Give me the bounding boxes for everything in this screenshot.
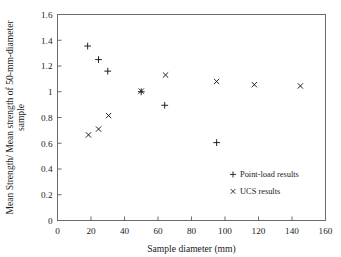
x-tick-label: 100: [218, 226, 232, 236]
data-point[interactable]: [298, 83, 303, 88]
data-point[interactable]: [163, 72, 168, 77]
y-tick-label: 1: [48, 87, 53, 97]
plot-canvas: 02040608010012014016000.20.40.60.811.21.…: [0, 0, 341, 257]
legend: Point-load resultsUCS results: [230, 170, 299, 196]
legend-marker-point-load: [230, 171, 236, 177]
x-tick-label: 80: [187, 226, 197, 236]
data-point[interactable]: [84, 43, 91, 50]
data-point[interactable]: [252, 82, 257, 87]
y-axis-title-line: Mean Strength/ Mean strength of 50-mm-di…: [4, 20, 15, 215]
x-axis-title: Sample diameter (mm): [147, 243, 235, 255]
y-axis-title-line: sample: [15, 104, 26, 131]
y-tick-label: 1.2: [41, 61, 53, 71]
x-tick-label: 140: [285, 226, 299, 236]
y-tick-label: 1.6: [41, 10, 53, 20]
y-tick-label: 0.4: [41, 164, 53, 174]
data-point[interactable]: [214, 79, 219, 84]
y-tick-label: 0.6: [41, 139, 53, 149]
series-point-load: [84, 43, 220, 146]
x-tick-label: 0: [55, 226, 60, 236]
legend-marker-ucs: [231, 189, 236, 194]
y-tick-label: 0: [48, 216, 53, 226]
data-point[interactable]: [86, 132, 91, 137]
x-tick-label: 160: [319, 226, 333, 236]
legend-label-point-load: Point-load results: [240, 170, 299, 179]
data-point[interactable]: [213, 139, 220, 146]
x-axis: 020406080100120140160: [55, 217, 333, 236]
x-tick-label: 20: [86, 226, 96, 236]
data-point[interactable]: [96, 126, 101, 131]
y-axis: 00.20.40.60.811.21.41.6: [41, 10, 61, 226]
data-point[interactable]: [106, 113, 111, 118]
y-axis-title: Mean Strength/ Mean strength of 50-mm-di…: [4, 20, 26, 215]
x-tick-label: 40: [120, 226, 130, 236]
data-point[interactable]: [104, 68, 111, 75]
series-ucs: [86, 72, 303, 137]
data-point[interactable]: [95, 56, 102, 63]
x-tick-label: 60: [153, 226, 163, 236]
y-tick-label: 1.4: [41, 36, 53, 46]
y-tick-label: 0.8: [41, 113, 53, 123]
plot-frame: [58, 15, 326, 221]
legend-label-ucs: UCS results: [240, 187, 280, 196]
x-tick-label: 120: [252, 226, 266, 236]
scatter-chart-figure: 02040608010012014016000.20.40.60.811.21.…: [0, 0, 341, 257]
y-tick-label: 0.2: [41, 190, 53, 200]
data-point[interactable]: [161, 102, 168, 109]
